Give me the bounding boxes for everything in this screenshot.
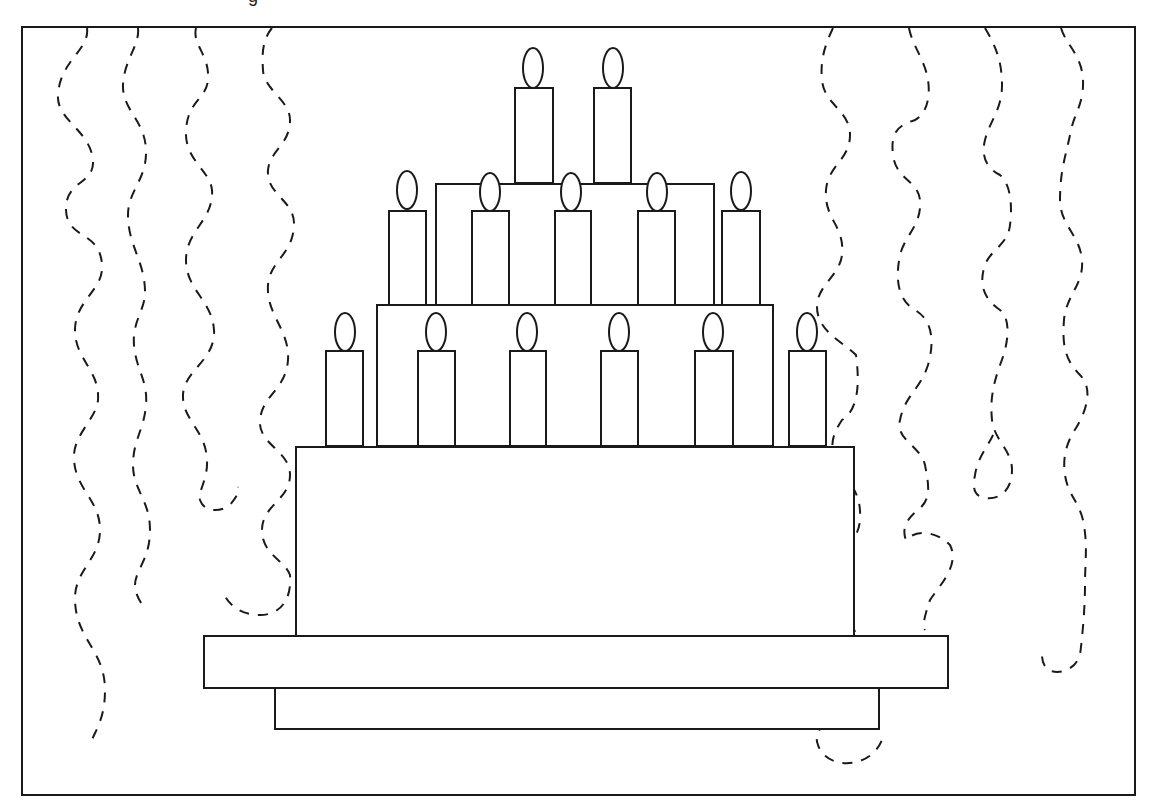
candle-body (555, 211, 591, 305)
flame-icon (647, 173, 667, 211)
flame-icon (480, 173, 500, 211)
flame-icon (703, 313, 723, 351)
cake-base-group (204, 636, 948, 729)
candle-body (695, 351, 733, 446)
cake-plate (204, 636, 948, 688)
flame-icon (609, 313, 629, 351)
candle-body (515, 88, 553, 183)
flame-icon (603, 48, 623, 88)
candle-body (326, 351, 363, 446)
candle-body (601, 351, 638, 446)
flame-icon (426, 313, 446, 351)
flame-icon (797, 313, 817, 351)
flame-icon (335, 313, 355, 351)
candle-body (722, 211, 760, 305)
candle-body (510, 351, 546, 446)
candle-body (418, 351, 455, 446)
candle-body (472, 211, 509, 305)
flame-icon (523, 48, 543, 88)
flame-icon (397, 171, 417, 209)
flame-icon (731, 172, 751, 210)
drawing-canvas (0, 0, 1151, 811)
candle-body (594, 88, 631, 183)
cake-bottom-tier (296, 447, 854, 636)
flame-icon (517, 313, 537, 351)
candle-body (789, 351, 826, 446)
candle-body (638, 211, 675, 305)
cake-stand-base (275, 688, 879, 729)
flame-icon (561, 173, 581, 211)
candle-body (389, 211, 426, 305)
